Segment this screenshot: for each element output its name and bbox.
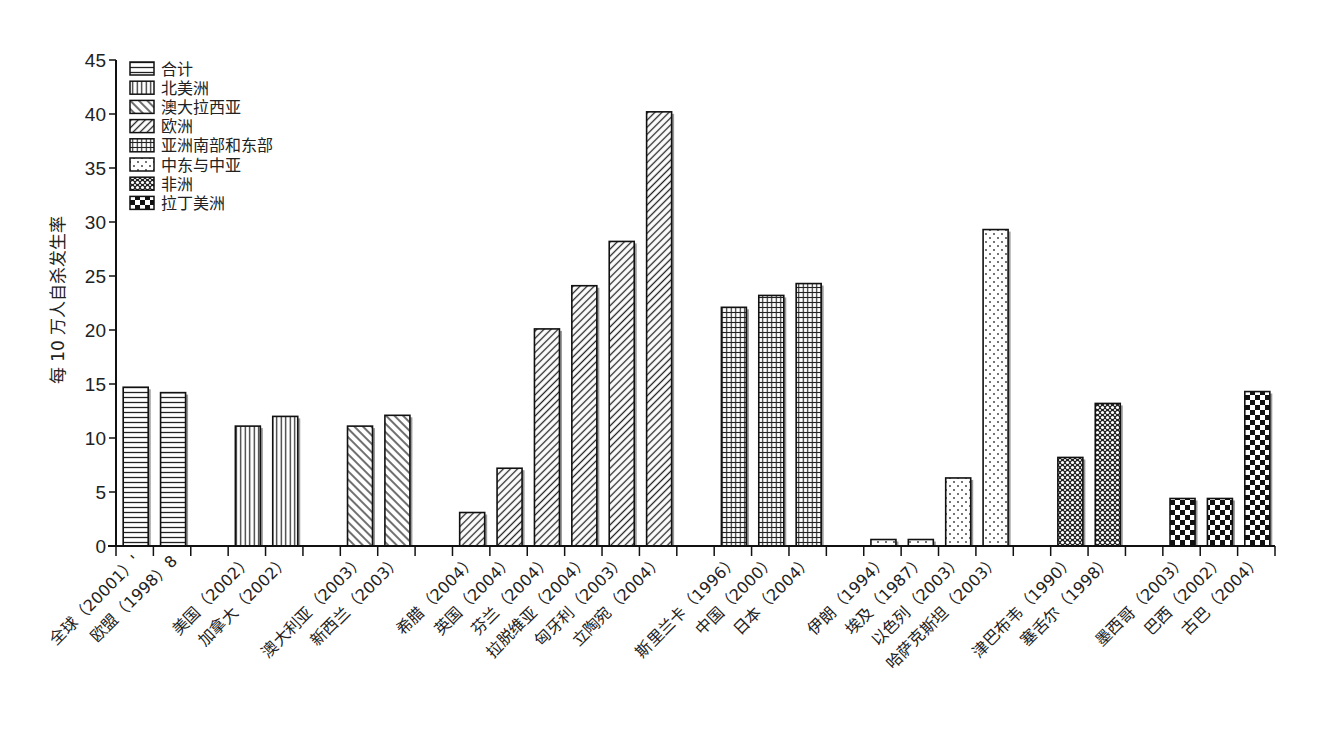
bar bbox=[348, 426, 373, 546]
bar bbox=[1245, 392, 1270, 546]
legend-swatch-diagonal-backward bbox=[130, 120, 154, 133]
y-tick-label: 20 bbox=[85, 320, 106, 341]
bar bbox=[534, 329, 559, 546]
y-tick-label: 30 bbox=[85, 212, 106, 233]
legend-label: 澳大拉西亚 bbox=[161, 98, 241, 117]
bar bbox=[460, 513, 485, 546]
bar bbox=[1095, 403, 1120, 546]
y-tick-label: 25 bbox=[85, 266, 106, 287]
legend-label: 亚洲南部和东部 bbox=[161, 136, 273, 155]
bar bbox=[385, 415, 410, 546]
legend-label: 北美洲 bbox=[161, 79, 209, 98]
legend-swatch-checkerboard bbox=[130, 196, 154, 209]
bar bbox=[497, 468, 522, 546]
bar bbox=[123, 387, 148, 546]
legend-label: 中东与中亚 bbox=[161, 156, 241, 175]
legend-swatch-grid bbox=[130, 139, 154, 152]
bar bbox=[647, 112, 672, 546]
y-tick-label: 40 bbox=[85, 104, 106, 125]
y-tick-label: 35 bbox=[85, 158, 106, 179]
y-tick-label: 15 bbox=[85, 374, 106, 395]
legend-label: 合计 bbox=[161, 60, 193, 79]
legend-swatch-diagonal-forward bbox=[130, 100, 154, 113]
legend-swatch-crosshatch-circles bbox=[130, 177, 154, 190]
bar bbox=[273, 416, 298, 546]
legend: 合计北美洲澳大拉西亚欧洲亚洲南部和东部中东与中亚非洲拉丁美洲 bbox=[130, 60, 273, 213]
legend-label: 拉丁美洲 bbox=[161, 194, 225, 213]
bar bbox=[721, 307, 746, 546]
bar bbox=[946, 478, 971, 546]
bar bbox=[161, 393, 186, 546]
y-tick-label: 10 bbox=[85, 428, 106, 449]
legend-swatch-vertical-lines bbox=[130, 81, 154, 94]
y-tick-label: 5 bbox=[95, 482, 106, 503]
bar bbox=[796, 284, 821, 546]
y-tick-label: 45 bbox=[85, 50, 106, 71]
bar bbox=[572, 286, 597, 546]
bar bbox=[1058, 457, 1083, 546]
bar bbox=[983, 230, 1008, 546]
bar bbox=[1207, 498, 1232, 546]
y-tick-label: 0 bbox=[95, 536, 106, 557]
bar bbox=[235, 426, 260, 546]
plot-area: 051015202530354045每 10 万人自杀发生率全球（20001）'… bbox=[46, 50, 1275, 673]
bar bbox=[759, 295, 784, 546]
suicide-rate-bar-chart: 051015202530354045每 10 万人自杀发生率全球（20001）'… bbox=[0, 0, 1329, 745]
y-axis-label: 每 10 万人自杀发生率 bbox=[48, 216, 68, 384]
legend-swatch-horizontal-lines bbox=[130, 62, 154, 75]
legend-swatch-dots bbox=[130, 158, 154, 171]
bar bbox=[1170, 498, 1195, 546]
legend-label: 非洲 bbox=[161, 175, 193, 194]
legend-label: 欧洲 bbox=[161, 117, 193, 136]
bar bbox=[609, 241, 634, 546]
